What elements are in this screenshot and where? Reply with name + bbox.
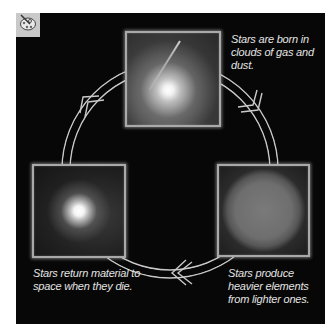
palette-icon — [18, 13, 38, 37]
palette-badge[interactable] — [16, 13, 40, 37]
caption-birth: Stars are born in clouds of gas and dust… — [231, 33, 321, 72]
jet-streak — [148, 40, 180, 90]
stage-image-death — [32, 164, 126, 258]
caption-fusion: Stars produce heavier elements from ligh… — [228, 267, 318, 306]
stage-image-fusion — [217, 164, 310, 257]
caption-death: Stars return material to space when they… — [33, 267, 143, 293]
stage-image-birth — [125, 31, 221, 127]
